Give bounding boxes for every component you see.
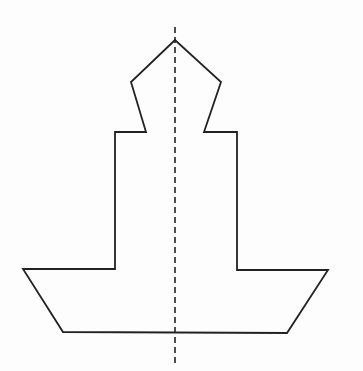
- diagram-canvas: [0, 0, 363, 371]
- symmetry-figure: [0, 0, 363, 371]
